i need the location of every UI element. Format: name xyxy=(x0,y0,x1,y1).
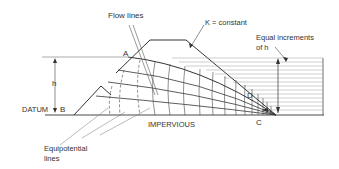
upstream-toe-face xyxy=(74,86,111,115)
h-arrowhead-up xyxy=(53,58,57,63)
equal-increments-label-1: Equal increments xyxy=(256,33,314,42)
equipotential-lines xyxy=(109,60,271,115)
point-d-label: D xyxy=(247,91,253,100)
arrowhead-up xyxy=(276,58,280,64)
datum-label: DATUM xyxy=(22,105,48,114)
point-c-label: C xyxy=(256,118,262,127)
k-constant-pointer xyxy=(190,25,204,48)
point-a-label: A xyxy=(123,49,128,58)
equal-increment-lines xyxy=(172,58,323,110)
equipotential-label-2: lines xyxy=(44,154,59,163)
point-b-label: B xyxy=(60,105,65,114)
equipotential-pointers xyxy=(60,108,150,145)
h-label: h xyxy=(52,79,56,88)
h-arrowhead-down xyxy=(53,108,57,113)
flow-lines-pointer xyxy=(129,25,158,95)
flow-lines-label: Flow lines xyxy=(108,11,144,20)
equipotential-label-1: Equipotential xyxy=(44,144,87,153)
impervious-label: IMPERVIOUS xyxy=(148,120,195,129)
k-constant-label: K = constant xyxy=(205,18,247,27)
equal-increments-label-2: of h xyxy=(256,43,269,52)
